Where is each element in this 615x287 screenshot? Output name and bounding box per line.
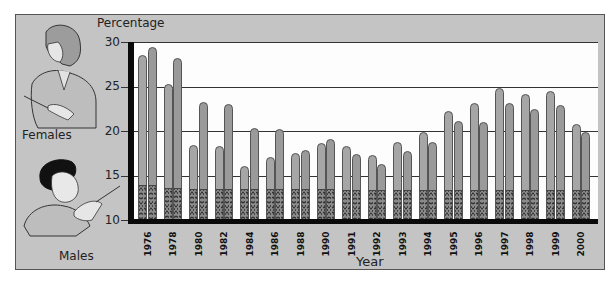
y-tick-label: 20 xyxy=(96,124,120,138)
y-tick-label: 15 xyxy=(96,168,120,182)
x-tick-label: 1984 xyxy=(244,229,256,259)
stippled-segment xyxy=(224,189,233,220)
y-tick-label: 30 xyxy=(96,35,120,49)
x-tick-label: 1999 xyxy=(550,229,562,259)
males-label: Males xyxy=(59,249,94,263)
y-axis-title: Percentage xyxy=(97,16,165,30)
stippled-segment xyxy=(581,190,590,220)
female-figure-icon xyxy=(18,22,104,130)
stippled-segment xyxy=(189,189,198,220)
stippled-segment xyxy=(199,189,208,220)
stippled-segment xyxy=(250,189,259,220)
stippled-segment xyxy=(342,190,351,220)
x-tick-label: 1997 xyxy=(499,229,511,259)
y-tick-label: 25 xyxy=(96,79,120,93)
stippled-segment xyxy=(546,190,555,220)
x-tick-label: 1980 xyxy=(193,229,205,259)
stippled-segment xyxy=(572,190,581,220)
stippled-segment xyxy=(138,185,147,220)
y-axis xyxy=(128,42,134,224)
stippled-segment xyxy=(164,188,173,220)
stippled-segment xyxy=(556,190,565,220)
stippled-segment xyxy=(240,189,249,220)
stippled-segment xyxy=(377,190,386,220)
stippled-segment xyxy=(317,189,326,220)
x-tick-label: 1982 xyxy=(218,229,230,259)
stippled-segment xyxy=(368,190,377,220)
x-tick-label: 1998 xyxy=(524,229,536,259)
females-label: Females xyxy=(22,128,72,142)
x-tick-label: 1978 xyxy=(167,229,179,259)
stippled-segment xyxy=(148,185,157,220)
stippled-segment xyxy=(326,189,335,220)
x-tick-label: 1993 xyxy=(397,229,409,259)
stippled-segment xyxy=(301,189,310,220)
stippled-segment xyxy=(215,189,224,220)
stippled-segment xyxy=(505,190,514,220)
x-axis xyxy=(128,219,598,224)
stippled-segment xyxy=(419,190,428,220)
stippled-segment xyxy=(266,189,275,220)
x-tick-label: 1994 xyxy=(422,229,434,259)
stippled-segment xyxy=(454,190,463,220)
stippled-segment xyxy=(495,190,504,220)
x-axis-title: Year xyxy=(356,254,384,269)
stippled-segment xyxy=(470,190,479,220)
x-tick-label: 1986 xyxy=(269,229,281,259)
x-tick-label: 1990 xyxy=(320,229,332,259)
y-tick-label: 10 xyxy=(96,213,120,227)
stippled-segment xyxy=(530,190,539,220)
stippled-segment xyxy=(291,189,300,220)
stippled-segment xyxy=(173,188,182,220)
x-tick-label: 1995 xyxy=(448,229,460,259)
stippled-segment xyxy=(479,190,488,220)
stippled-segment xyxy=(403,190,412,220)
x-tick-label: 1988 xyxy=(295,229,307,259)
stippled-segment xyxy=(275,189,284,220)
x-tick-label: 1976 xyxy=(142,229,154,259)
gridline xyxy=(129,42,598,43)
x-tick-label: 1996 xyxy=(473,229,485,259)
gridline xyxy=(129,87,598,88)
stippled-segment xyxy=(444,190,453,220)
stippled-segment xyxy=(352,190,361,220)
x-tick-label: 2000 xyxy=(575,229,587,259)
stippled-segment xyxy=(393,190,402,220)
stippled-segment xyxy=(428,190,437,220)
stippled-segment xyxy=(521,190,530,220)
